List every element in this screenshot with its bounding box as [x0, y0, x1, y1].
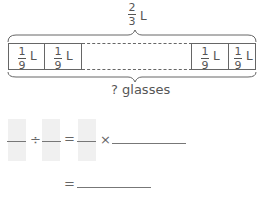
dashed-top-edge — [82, 43, 192, 44]
divide-symbol: ÷ — [30, 132, 41, 147]
total-denominator: 3 — [129, 16, 136, 27]
fraction-bar — [7, 141, 26, 142]
cell-unit: L — [213, 49, 220, 63]
equals-symbol: = — [64, 131, 75, 146]
cell-fraction: 1 9 — [18, 46, 26, 71]
bar-cell: 1 9 L — [228, 43, 256, 70]
cell-numerator: 1 — [235, 46, 242, 57]
cell-numerator: 1 — [202, 46, 209, 57]
fraction-bar — [42, 141, 61, 142]
cell-numerator: 1 — [55, 46, 62, 57]
top-brace-icon — [0, 28, 265, 44]
cell-unit: L — [246, 49, 253, 63]
times-symbol: × — [100, 132, 111, 147]
equals-symbol: = — [64, 176, 75, 191]
final-answer-line[interactable] — [77, 187, 151, 188]
cell-fraction: 1 9 — [201, 46, 209, 71]
cell-fraction: 1 9 — [234, 46, 242, 71]
cell-unit: L — [30, 49, 37, 63]
cell-unit: L — [66, 49, 73, 63]
dividend-fraction-input[interactable] — [8, 119, 26, 161]
bar-cell: 1 9 L — [191, 43, 229, 70]
cell-fraction: 1 9 — [54, 46, 62, 71]
bottom-label: ? glasses — [111, 82, 170, 97]
divisor-fraction-input[interactable] — [42, 119, 60, 161]
bar-cell: 1 9 L — [8, 43, 45, 70]
total-unit: L — [140, 9, 147, 23]
fraction-bar — [77, 141, 96, 142]
total-numerator: 2 — [129, 2, 136, 13]
total-fraction: 2 3 — [128, 2, 136, 27]
bar-cell: 1 9 L — [44, 43, 82, 70]
cell-numerator: 1 — [19, 46, 26, 57]
product-answer-line[interactable] — [112, 143, 186, 144]
multiplier-fraction-input[interactable] — [78, 119, 96, 161]
